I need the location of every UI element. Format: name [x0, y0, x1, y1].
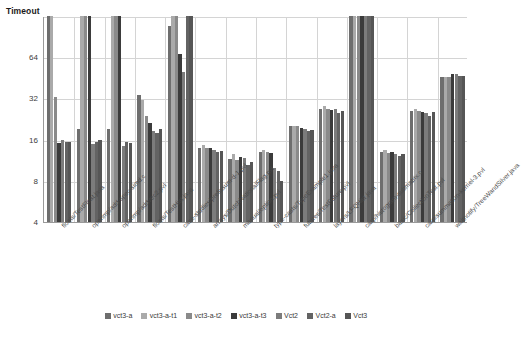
bar: [98, 140, 101, 222]
y-axis-tick-label: 32: [4, 94, 38, 103]
legend-item[interactable]: Vct2: [276, 312, 299, 319]
legend-label: Vct2: [284, 312, 298, 319]
bar: [68, 142, 71, 222]
legend-label: Vct2-a: [316, 312, 336, 319]
y-axis-tick-label: 64: [4, 53, 38, 62]
legend-swatch-icon: [231, 313, 237, 319]
bar: [310, 130, 313, 222]
y-axis-title: Timeout: [6, 6, 40, 16]
y-axis-tick-label: 4: [4, 218, 38, 227]
legend-label: vct3-a: [113, 312, 132, 319]
legend-label: vct3-a-t2: [195, 312, 222, 319]
legend-item[interactable]: Vct2-a: [307, 312, 336, 319]
legend-swatch-icon: [345, 313, 351, 319]
legend-label: vct3-a-t3: [239, 312, 266, 319]
legend-item[interactable]: vct3-a-t2: [186, 312, 222, 319]
bar: [159, 129, 162, 222]
bar: [432, 112, 435, 222]
bar: [341, 111, 344, 222]
x-axis-labels: floats/TestFloat.javaopenmp/add-spec-sim…: [43, 224, 467, 308]
legend-item[interactable]: vct3-a-t1: [141, 312, 177, 319]
legend-label: vct3-a-t1: [150, 312, 177, 319]
legend-item[interactable]: vct3-a-t3: [231, 312, 267, 319]
legend-swatch-icon: [141, 313, 147, 319]
y-axis-tick-label: 16: [4, 136, 38, 145]
bar: [462, 76, 465, 222]
bar-group: [44, 17, 74, 222]
legend-item[interactable]: Vct3: [345, 312, 368, 319]
legend-swatch-icon: [276, 313, 282, 319]
legend-label: Vct3: [353, 312, 367, 319]
legend-swatch-icon: [105, 313, 111, 319]
y-axis-tick-label: 8: [4, 177, 38, 186]
legend-swatch-icon: [307, 313, 313, 319]
legend-swatch-icon: [186, 313, 192, 319]
chart-legend: vct3-avct3-a-t1vct3-a-t2vct3-a-t3Vct2Vct…: [0, 312, 472, 319]
legend-item[interactable]: vct3-a: [105, 312, 133, 319]
bar-group: [256, 17, 286, 222]
